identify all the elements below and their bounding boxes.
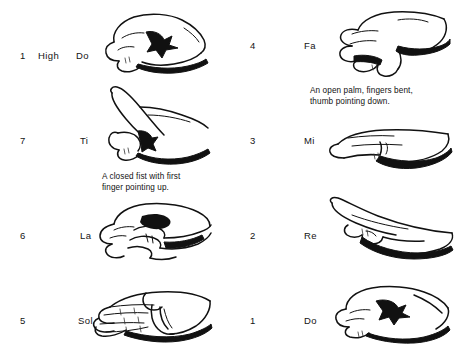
- row-syllable: Re: [304, 230, 317, 241]
- chart-row-sol[interactable]: 5 Sol: [0, 275, 230, 350]
- hand-sign-high-do-icon: [92, 8, 210, 78]
- chart-row-do[interactable]: 1 Do: [230, 275, 457, 350]
- right-column-caption: An open palm, fingers bent, thumb pointi…: [310, 86, 450, 107]
- hand-sign-mi-icon: [322, 124, 452, 172]
- row-number: 3: [250, 135, 256, 146]
- right-column: 4 Fa: [230, 0, 457, 350]
- row-syllable: Ti: [80, 135, 88, 146]
- hand-sign-fa-icon: [328, 6, 450, 80]
- hand-sign-chart: 1 High Do 7: [0, 0, 457, 350]
- row-syllable: Do: [76, 50, 89, 61]
- chart-row-la[interactable]: 6 La: [0, 190, 230, 275]
- left-column: 1 High Do 7: [0, 0, 230, 350]
- row-number: 4: [250, 40, 256, 51]
- hand-sign-ti-icon: [96, 81, 214, 167]
- row-number: 1: [20, 50, 26, 61]
- row-number: 7: [20, 135, 26, 146]
- row-number: 2: [250, 230, 256, 241]
- hand-sign-do-icon: [324, 283, 450, 345]
- chart-row-ti[interactable]: 7 Ti: [0, 85, 230, 170]
- row-number: 1: [250, 315, 256, 326]
- hand-sign-sol-icon: [90, 283, 212, 345]
- row-syllable: Do: [304, 315, 317, 326]
- chart-row-fa[interactable]: 4 Fa: [230, 0, 457, 85]
- chart-row-high-do[interactable]: 1 High Do: [0, 0, 230, 85]
- chart-row-re[interactable]: 2 Re: [230, 195, 457, 280]
- row-number: 6: [20, 230, 26, 241]
- row-syllable: Mi: [304, 135, 315, 146]
- chart-row-mi[interactable]: 3 Mi: [230, 110, 457, 195]
- row-octave: High: [38, 50, 59, 61]
- hand-sign-re-icon: [318, 195, 454, 259]
- hand-sign-la-icon: [90, 196, 212, 266]
- row-number: 5: [20, 315, 26, 326]
- row-syllable: Fa: [304, 40, 316, 51]
